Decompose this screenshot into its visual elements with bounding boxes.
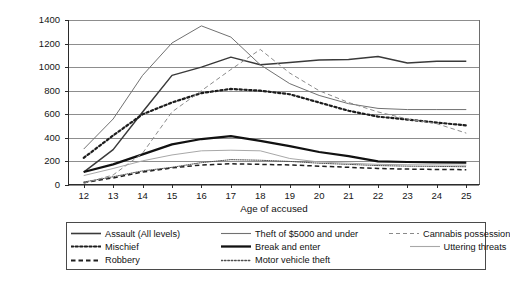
legend-line-icon (410, 242, 440, 251)
legend-line-icon (389, 229, 419, 238)
x-axis-tick-label: 15 (159, 190, 185, 201)
legend-item[interactable]: Assault (All levels) (71, 227, 221, 240)
x-axis-title: Age of accused (68, 203, 480, 214)
series-line (84, 26, 467, 149)
legend-line-icon (221, 256, 251, 265)
chart-legend: Assault (All levels)Theft of $5000 and u… (66, 222, 486, 270)
legend-label: Motor vehicle theft (255, 255, 330, 265)
x-axis-tick-label: 18 (247, 190, 273, 201)
y-axis-tick-label: 1200 (0, 39, 60, 49)
x-axis-tick-label: 17 (218, 190, 244, 201)
legend-line-icon (71, 256, 101, 265)
x-axis-tick-label: 13 (100, 190, 126, 201)
plot-area: 1213141516171819202122232425 (68, 20, 480, 185)
x-axis-tick-label: 19 (277, 190, 303, 201)
gridline (69, 185, 479, 186)
y-axis-tick-label: 200 (0, 156, 60, 166)
x-axis-tick-label: 22 (365, 190, 391, 201)
legend-line-icon (71, 229, 101, 238)
y-axis-tick-label: 400 (0, 133, 60, 143)
legend-item[interactable]: Robbery (71, 254, 221, 267)
series-layer (69, 20, 481, 185)
legend-item[interactable]: Theft of $5000 and under (221, 227, 389, 240)
legend-line-icon (221, 229, 251, 238)
legend-label: Robbery (105, 255, 140, 265)
x-axis-tick-label: 21 (336, 190, 362, 201)
x-axis-tick-label: 12 (71, 190, 97, 201)
y-axis-tick-label: 1400 (0, 15, 60, 25)
series-line (84, 49, 467, 183)
y-axis-tick-label: 1000 (0, 62, 60, 72)
legend-label: Cannabis possession (423, 229, 510, 239)
x-axis-tick-label: 14 (130, 190, 156, 201)
legend-line-icon (71, 242, 101, 251)
series-line (84, 136, 467, 172)
legend-item[interactable]: Cannabis possession (389, 227, 510, 240)
series-line (84, 164, 467, 183)
x-axis-tick-label: 16 (188, 190, 214, 201)
legend-item[interactable]: Break and enter (221, 240, 389, 253)
x-axis-tick-label: 23 (394, 190, 420, 201)
legend-item[interactable]: Mischief (71, 240, 221, 253)
legend-label: Mischief (105, 242, 139, 252)
x-axis-tick-label: 25 (453, 190, 479, 201)
legend-label: Theft of $5000 and under (255, 229, 358, 239)
legend-grid: Assault (All levels)Theft of $5000 and u… (71, 227, 483, 267)
legend-item[interactable]: Motor vehicle theft (221, 254, 389, 267)
y-axis-tick-label: 800 (0, 86, 60, 96)
legend-label: Uttering threats (444, 242, 507, 252)
y-axis-tick-label: 600 (0, 109, 60, 119)
legend-line-icon (221, 242, 251, 251)
legend-label: Assault (All levels) (105, 229, 180, 239)
series-line (84, 89, 467, 158)
legend-item[interactable]: Uttering threats (389, 240, 510, 253)
x-axis-tick-label: 24 (424, 190, 450, 201)
y-axis-tick-label: 0 (0, 180, 60, 190)
legend-label: Break and enter (255, 242, 320, 252)
x-axis-tick-label: 20 (306, 190, 332, 201)
y-axis-tick (65, 185, 69, 186)
